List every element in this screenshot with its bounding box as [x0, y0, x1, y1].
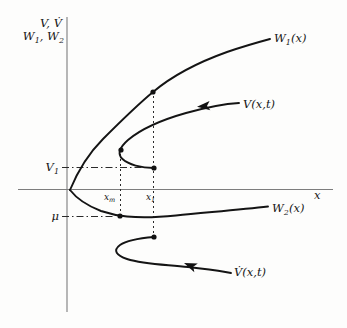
y-axis-label-line1: V, V̇	[40, 16, 64, 30]
y-axis-label-line2: W1, W2	[23, 29, 64, 45]
label-v: V(x,t)	[243, 97, 275, 111]
label-w2: W2(x)	[272, 201, 304, 217]
figure-canvas: V, V̇ W1, W2 W1(x) V(x,t) W2(x) V̇(x,t) …	[0, 0, 347, 328]
figure-svg: V, V̇ W1, W2 W1(x) V(x,t) W2(x) V̇(x,t) …	[0, 0, 347, 328]
curve-vdot	[116, 237, 231, 273]
marker-dot-v-end-at-x1	[151, 165, 156, 170]
x-axis-label: x	[314, 188, 321, 202]
label-xm: xm	[104, 192, 115, 204]
curve-v	[120, 103, 239, 168]
label-mu: μ	[52, 209, 59, 223]
label-w1: W1(x)	[274, 31, 306, 47]
label-x1: x1	[146, 192, 155, 204]
marker-dot-w1-at-x1	[150, 89, 155, 94]
curve-w1	[70, 39, 270, 190]
marker-dot-vdot-end-at-x1	[151, 234, 156, 239]
label-v1: V1	[46, 160, 59, 176]
vdot-curve-arrowhead-icon	[182, 259, 197, 272]
curve-w2	[70, 190, 268, 217]
marker-dot-v-tip-at-xm	[118, 147, 123, 152]
label-vdot: V̇(x,t)	[234, 265, 266, 279]
marker-dot-w2-at-xm	[117, 213, 122, 218]
